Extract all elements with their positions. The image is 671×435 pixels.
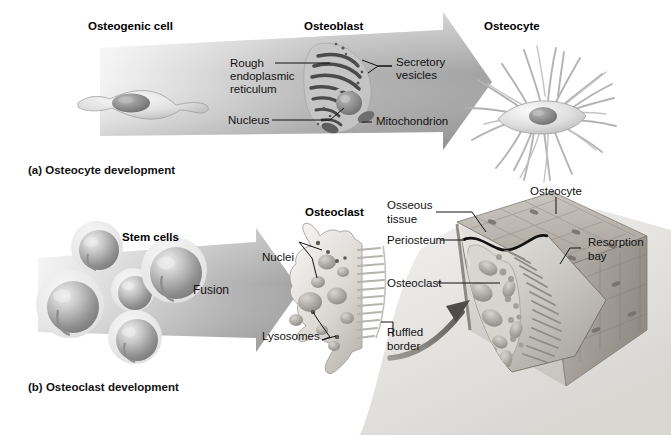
osteocyte-illustration [466,46,616,182]
callout-mitochondrion: Mitochondrion [376,115,448,128]
callout-resorption-bay-line1: Resorption [588,236,644,249]
callout-rough-er-line3: reticulum [230,83,277,96]
callout-secretory-vesicles-line1: Secretory [396,56,445,69]
callout-nucleus: Nucleus [228,114,270,127]
callout-periosteum: Periosteum [387,234,445,247]
heading-osteogenic-cell: Osteogenic cell [88,20,173,32]
heading-stem-cells: Stem cells [122,231,179,243]
callout-osseous-tissue-line1: Osseous [387,199,432,212]
bone-cell-development-figure: Osteogenic cell Osteoblast Osteocyte Rou… [0,0,671,435]
callout-resorption-bay-line2: bay [588,250,607,263]
heading-osteoblast: Osteoblast [304,20,363,32]
callout-osseous-tissue-line2: tissue [387,213,417,226]
callout-osteoclast-bone: Osteoclast [387,277,441,290]
callout-nuclei: Nuclei [262,251,294,264]
callout-secretory-vesicles-line2: vesicles [396,69,437,82]
heading-osteocyte: Osteocyte [484,20,540,32]
caption-panel-b: (b) Osteoclast development [28,381,179,393]
callout-rough-er-line2: endoplasmic [230,70,295,83]
callout-rough-er-line1: Rough [230,57,264,70]
osteoclast-illustration [289,223,385,373]
heading-osteoclast: Osteoclast [305,206,364,218]
callout-lysosomes: Lysosomes [262,330,320,343]
arrow-label-fusion: Fusion [193,284,229,297]
caption-panel-a: (a) Osteocyte development [28,164,175,176]
callout-osteocyte-bone: Osteocyte [530,185,582,198]
callout-ruffled-border-line1: Ruffled [387,326,423,339]
callout-ruffled-border-line2: border [387,340,420,353]
